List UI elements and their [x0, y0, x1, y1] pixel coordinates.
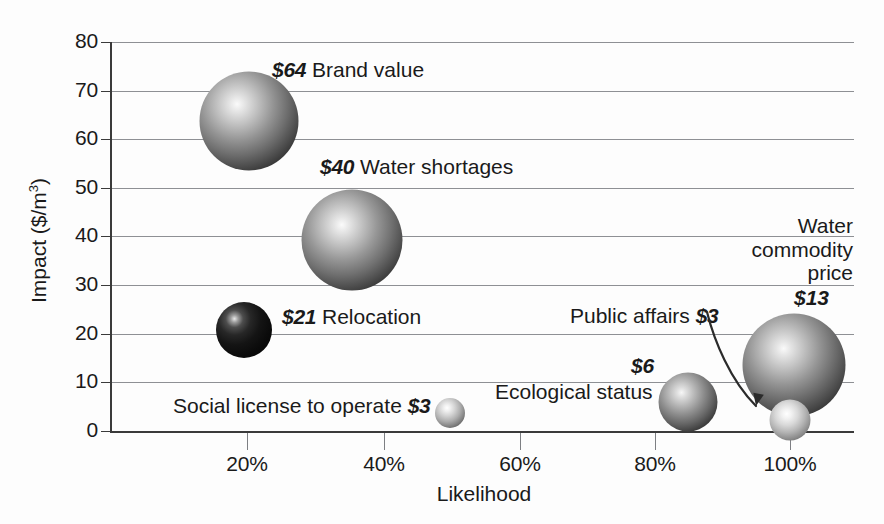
y-tick-label-20: 20 [54, 321, 98, 345]
y-axis-tick-labels: 80 70 60 50 40 30 20 10 0 [10, 0, 98, 524]
x-tick-label-60: 60% [499, 452, 540, 476]
label-water-shortages-name: Water shortages [360, 155, 513, 178]
label-water-commodity-line2: commodity [751, 238, 853, 261]
x-axis-line [110, 431, 854, 433]
y-tick-label-0: 0 [54, 418, 98, 442]
label-ecological-status: Ecological status [495, 381, 653, 404]
gridline-10 [112, 382, 854, 383]
bubble-relocation[interactable] [216, 302, 272, 358]
y-tick-mark-50 [101, 188, 110, 189]
x-tick-label-40: 40% [363, 452, 404, 476]
y-tick-label-10: 10 [54, 369, 98, 393]
label-ecological-status-amount-wrap: $6 [631, 355, 654, 378]
y-tick-mark-40 [101, 236, 110, 237]
x-axis-title-text: Likelihood [437, 482, 532, 505]
bubble-ecological-status[interactable] [659, 373, 718, 432]
bubble-chart: 80 70 60 50 40 30 20 10 0 20% 40% 60% 80… [0, 0, 884, 524]
label-social-license-name: Social license to operate [173, 394, 402, 417]
y-tick-mark-30 [101, 285, 110, 286]
bubble-water-shortages[interactable] [302, 190, 403, 291]
y-tick-label-70: 70 [54, 78, 98, 102]
label-water-shortages: $40 Water shortages [320, 156, 513, 179]
bubble-social-license-to-operate[interactable] [435, 398, 465, 428]
y-tick-mark-70 [101, 91, 110, 92]
y-tick-label-30: 30 [54, 272, 98, 296]
x-tick-mark-20 [247, 433, 248, 450]
x-tick-label-100: 100% [764, 452, 817, 476]
y-tick-label-60: 60 [54, 126, 98, 150]
y-axis-title-suffix: ) [27, 178, 50, 185]
y-axis-title-text: Impact ($/m [27, 192, 50, 303]
label-ecological-status-amount: $6 [631, 354, 654, 377]
y-tick-mark-10 [101, 382, 110, 383]
y-tick-mark-20 [101, 334, 110, 335]
label-social-license-amount: $3 [408, 394, 431, 417]
x-tick-mark-80 [655, 433, 656, 450]
label-water-commodity-amount: $13 [640, 286, 829, 310]
label-brand-value-name: Brand value [312, 58, 424, 81]
label-ecological-status-name: Ecological status [495, 380, 653, 403]
gridline-50 [112, 188, 854, 189]
label-water-commodity-line3: price [807, 261, 853, 284]
y-tick-label-80: 80 [54, 29, 98, 53]
bubble-brand-value[interactable] [200, 72, 299, 171]
y-axis-title: Impact ($/m3) [26, 141, 51, 341]
x-axis-title: Likelihood [0, 482, 884, 506]
label-brand-value-amount: $64 [272, 58, 306, 81]
label-social-license-to-operate: Social license to operate $3 [173, 395, 430, 418]
x-tick-label-80: 80% [634, 452, 675, 476]
x-tick-mark-60 [520, 433, 521, 450]
x-tick-label-20: 20% [226, 452, 267, 476]
label-water-shortages-amount: $40 [320, 155, 354, 178]
label-relocation: $21 Relocation [282, 306, 421, 329]
y-tick-mark-80 [101, 42, 110, 43]
label-water-commodity-line1: Water [798, 214, 853, 237]
gridline-80 [112, 42, 854, 43]
y-axis-line [110, 42, 112, 432]
y-tick-label-40: 40 [54, 223, 98, 247]
x-tick-mark-40 [384, 433, 385, 450]
bubble-public-affairs[interactable] [770, 400, 811, 441]
y-axis-title-exponent: 3 [26, 185, 41, 192]
label-relocation-name: Relocation [322, 305, 421, 328]
y-tick-mark-60 [101, 139, 110, 140]
y-tick-label-50: 50 [54, 175, 98, 199]
y-tick-mark-0 [101, 431, 110, 432]
label-brand-value: $64 Brand value [272, 59, 424, 82]
label-water-commodity-price: Water commodity price $13 [640, 214, 853, 309]
label-relocation-amount: $21 [282, 305, 316, 328]
